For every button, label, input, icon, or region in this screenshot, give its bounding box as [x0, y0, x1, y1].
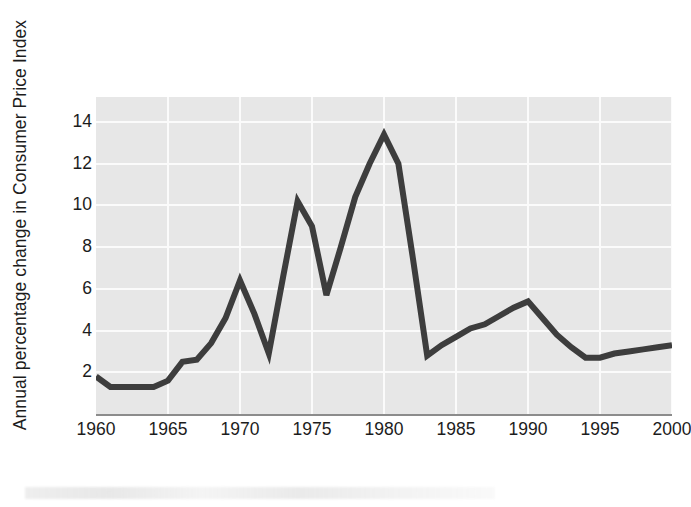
x-tick-label: 2000 — [653, 419, 691, 441]
y-tick-label: 8 — [52, 238, 92, 256]
x-tick-label: 1965 — [149, 419, 188, 441]
x-tick-label: 1980 — [365, 419, 404, 441]
x-tick-label: 1960 — [77, 419, 116, 441]
y-axis-title-container: Annual percentage change in Consumer Pri… — [0, 0, 40, 430]
x-axis-spine — [96, 414, 672, 416]
x-tick-label: 1985 — [437, 419, 476, 441]
x-tick-label: 1995 — [581, 419, 620, 441]
x-tick-label: 1970 — [221, 419, 260, 441]
y-tick-label: 10 — [52, 197, 92, 215]
cpi-series-polyline — [96, 135, 672, 387]
y-tick-label: 2 — [52, 364, 92, 382]
x-tick-label: 1975 — [293, 419, 332, 441]
y-tick-label: 12 — [52, 155, 92, 173]
scan-artifact-strip — [25, 487, 495, 499]
y-tick-label: 14 — [52, 113, 92, 131]
x-tick-label: 1990 — [509, 419, 548, 441]
y-axis-title: Annual percentage change in Consumer Pri… — [0, 10, 40, 440]
y-tick-label: 6 — [52, 280, 92, 298]
plot-area — [96, 97, 672, 414]
y-tick-label: 4 — [52, 322, 92, 340]
y-axis-tick-labels: 2468101214 — [52, 97, 92, 414]
cpi-series-line — [96, 97, 672, 414]
x-axis-tick-labels: 196019651970197519801985199019952000 — [0, 419, 673, 449]
